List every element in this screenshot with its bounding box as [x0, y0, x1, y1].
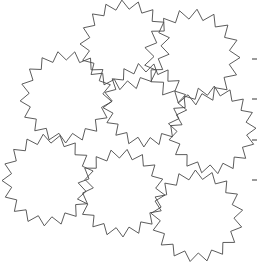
- star-bottom-center: [77, 149, 165, 237]
- star-bottom-left: [2, 134, 93, 226]
- star-top-right: [145, 9, 240, 105]
- star-bottom-right: [151, 170, 243, 261]
- shapes-layer: [2, 0, 256, 261]
- axis-ticks-layer: [252, 59, 257, 180]
- star-polygon-figure: [0, 0, 260, 269]
- figure-canvas: [0, 0, 260, 269]
- star-top-center: [80, 0, 169, 90]
- star-middle-left: [20, 52, 112, 143]
